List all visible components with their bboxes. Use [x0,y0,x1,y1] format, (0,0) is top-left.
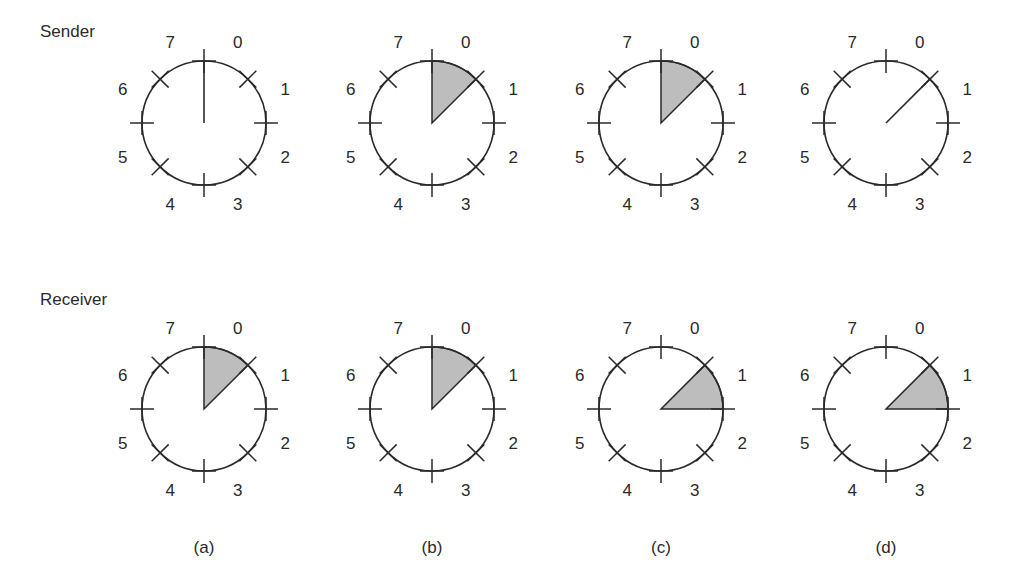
seq-label-3: 3 [915,481,924,500]
seq-label-6: 6 [800,366,809,385]
seq-label-0: 0 [233,33,242,52]
seq-label-4: 4 [623,195,632,214]
seq-label-3: 3 [233,195,242,214]
seq-label-4: 4 [848,481,857,500]
seq-label-1: 1 [509,80,518,99]
sliding-window-diagram: 0123456701234567012345670123456701234567… [0,0,1010,576]
seq-label-2: 2 [963,434,972,453]
receiver-window-sector-0 [432,347,476,409]
caption-d: (d) [876,538,897,558]
seq-label-3: 3 [233,481,242,500]
seq-label-3: 3 [461,481,470,500]
sender-pointer-line [886,79,930,123]
seq-label-5: 5 [118,434,127,453]
sender-window-sector-0 [432,61,476,123]
seq-label-7: 7 [394,319,403,338]
seq-label-7: 7 [848,319,857,338]
seq-label-7: 7 [848,33,857,52]
caption-b: (b) [422,538,443,558]
seq-label-7: 7 [166,319,175,338]
caption-a: (a) [194,538,215,558]
seq-label-1: 1 [281,366,290,385]
seq-label-1: 1 [281,80,290,99]
seq-label-5: 5 [800,148,809,167]
seq-label-3: 3 [690,481,699,500]
seq-label-1: 1 [738,366,747,385]
seq-label-6: 6 [346,80,355,99]
seq-label-6: 6 [800,80,809,99]
seq-label-2: 2 [281,434,290,453]
seq-label-5: 5 [346,148,355,167]
seq-label-1: 1 [509,366,518,385]
seq-label-0: 0 [915,33,924,52]
seq-label-2: 2 [738,434,747,453]
seq-label-5: 5 [118,148,127,167]
seq-label-4: 4 [394,481,403,500]
seq-label-0: 0 [461,319,470,338]
seq-label-2: 2 [509,434,518,453]
seq-label-6: 6 [575,366,584,385]
seq-label-6: 6 [346,366,355,385]
seq-label-5: 5 [800,434,809,453]
seq-label-5: 5 [575,434,584,453]
seq-label-2: 2 [738,148,747,167]
seq-label-3: 3 [690,195,699,214]
seq-label-5: 5 [575,148,584,167]
seq-label-1: 1 [738,80,747,99]
caption-c: (c) [651,538,671,558]
seq-label-7: 7 [623,33,632,52]
seq-label-4: 4 [623,481,632,500]
seq-label-0: 0 [915,319,924,338]
seq-label-0: 0 [461,33,470,52]
seq-label-6: 6 [118,80,127,99]
seq-label-5: 5 [346,434,355,453]
seq-label-7: 7 [623,319,632,338]
receiver-window-sector-1 [661,365,723,409]
seq-label-4: 4 [394,195,403,214]
seq-label-2: 2 [281,148,290,167]
seq-label-0: 0 [690,33,699,52]
seq-label-0: 0 [233,319,242,338]
seq-label-4: 4 [848,195,857,214]
seq-label-1: 1 [963,80,972,99]
seq-label-3: 3 [915,195,924,214]
seq-label-4: 4 [166,481,175,500]
receiver-window-sector-0 [204,347,248,409]
seq-label-7: 7 [394,33,403,52]
seq-label-2: 2 [509,148,518,167]
seq-label-7: 7 [166,33,175,52]
receiver-window-sector-1 [886,365,948,409]
seq-label-6: 6 [575,80,584,99]
seq-label-3: 3 [461,195,470,214]
seq-label-2: 2 [963,148,972,167]
seq-label-4: 4 [166,195,175,214]
seq-label-6: 6 [118,366,127,385]
seq-label-0: 0 [690,319,699,338]
sender-window-sector-0 [661,61,705,123]
seq-label-1: 1 [963,366,972,385]
